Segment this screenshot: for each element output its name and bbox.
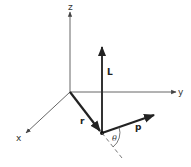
- x-axis-label: x: [16, 133, 22, 143]
- angular-momentum-diagram: z y x r L p θ: [0, 0, 191, 167]
- r-vector-label: r: [80, 116, 85, 126]
- y-axis-label: y: [178, 87, 184, 97]
- x-axis: [26, 92, 70, 133]
- p-vector-label: p: [135, 122, 142, 132]
- p-vector: [102, 115, 154, 133]
- L-vector-label: L: [107, 67, 113, 77]
- theta-label: θ: [112, 134, 117, 143]
- z-axis-label: z: [68, 2, 73, 12]
- r-vector: [70, 92, 100, 131]
